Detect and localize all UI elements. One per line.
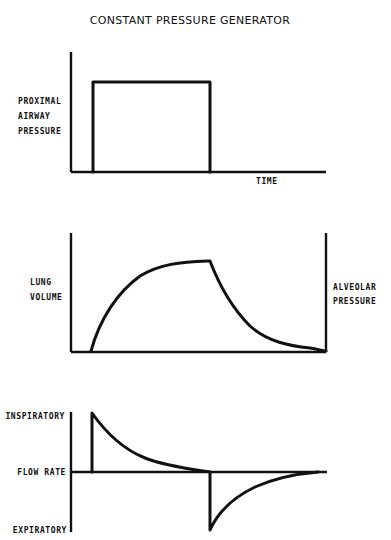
- alveolar-label-line-2: PRESSURE: [333, 297, 376, 306]
- volume-label-line-2: VOLUME: [30, 293, 63, 302]
- pressure-label-line-1: PROXIMAL: [18, 97, 61, 106]
- inspiratory-flow-curve: [92, 413, 210, 472]
- volume-panel: LUNG VOLUME ALVEOLAR PRESSURE: [30, 233, 376, 352]
- flow-rate-label: FLOW RATE: [17, 468, 66, 477]
- diagram-svg: CONSTANT PRESSURE GENERATOR PROXIMAL AIR…: [0, 0, 391, 540]
- alveolar-label-line-1: ALVEOLAR: [333, 283, 376, 292]
- diagram-title: CONSTANT PRESSURE GENERATOR: [90, 14, 290, 27]
- pressure-square-wave: [93, 82, 210, 172]
- expiratory-flow-curve: [210, 472, 318, 530]
- pressure-label-line-2: AIRWAY: [18, 112, 51, 121]
- time-axis-label: TIME: [256, 177, 278, 186]
- pressure-panel: PROXIMAL AIRWAY PRESSURE TIME: [18, 52, 326, 186]
- flow-panel: INSPIRATORY FLOW RATE EXPIRATORY: [5, 412, 327, 535]
- pressure-label-line-3: PRESSURE: [18, 127, 61, 136]
- diagram-canvas: CONSTANT PRESSURE GENERATOR PROXIMAL AIR…: [0, 0, 391, 540]
- volume-curve: [91, 261, 326, 351]
- inspiratory-label: INSPIRATORY: [5, 412, 65, 421]
- expiratory-label: EXPIRATORY: [13, 526, 67, 535]
- volume-label-line-1: LUNG: [30, 278, 52, 287]
